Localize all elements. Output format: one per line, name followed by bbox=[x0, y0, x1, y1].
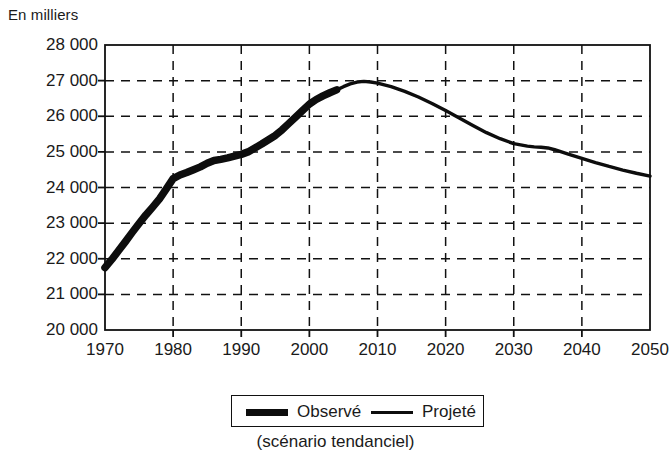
y-axis-tick-label: 27 000 bbox=[6, 71, 98, 91]
x-axis-tick-label: 1970 bbox=[86, 340, 124, 360]
legend-label-projected: Projeté bbox=[422, 402, 476, 422]
x-axis-tick-label: 1980 bbox=[154, 340, 192, 360]
y-axis-tick-label: 22 000 bbox=[6, 249, 98, 269]
x-axis-tick-label: 2030 bbox=[495, 340, 533, 360]
x-axis-tick-label: 2020 bbox=[427, 340, 465, 360]
legend-item-observed: Observé bbox=[246, 396, 361, 428]
x-axis-tick-label: 2050 bbox=[631, 340, 669, 360]
x-axis-tick-label: 1990 bbox=[222, 340, 260, 360]
y-axis-tick-label: 21 000 bbox=[6, 284, 98, 304]
legend-swatch-projected-icon bbox=[371, 411, 413, 414]
y-axis-tick-labels: 28 00027 00026 00025 00024 00023 00022 0… bbox=[0, 0, 98, 465]
x-axis-tick-label: 2040 bbox=[563, 340, 601, 360]
y-axis-tick-label: 23 000 bbox=[6, 213, 98, 233]
y-axis-tick-label: 20 000 bbox=[6, 320, 98, 340]
series-line-projected bbox=[337, 81, 650, 176]
y-axis-tick-label: 28 000 bbox=[6, 35, 98, 55]
legend-item-projected: Projeté bbox=[371, 396, 476, 428]
y-axis-tick-label: 25 000 bbox=[6, 142, 98, 162]
y-axis-tick-label: 24 000 bbox=[6, 178, 98, 198]
chart-legend: Observé Projeté bbox=[231, 395, 484, 427]
x-axis-tick-label: 2010 bbox=[359, 340, 397, 360]
legend-swatch-observed-icon bbox=[246, 409, 288, 416]
legend-label-observed: Observé bbox=[297, 402, 361, 422]
x-axis-tick-label: 2000 bbox=[290, 340, 328, 360]
population-projection-chart: En milliers 28 00027 00026 00025 00024 0… bbox=[0, 0, 671, 465]
axis-ticks bbox=[98, 81, 582, 337]
chart-caption: (scénario tendanciel) bbox=[0, 432, 671, 452]
gridlines bbox=[105, 45, 650, 330]
y-axis-tick-label: 26 000 bbox=[6, 106, 98, 126]
